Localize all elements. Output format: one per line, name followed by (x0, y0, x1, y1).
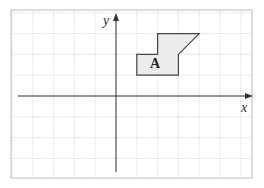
grid-lines (11, 10, 252, 178)
y-axis-arrow-icon (113, 13, 119, 21)
x-axis-label: x (240, 100, 248, 115)
grid-border (11, 10, 252, 178)
coordinate-grid-figure: x y A (0, 0, 264, 188)
shape-a-label: A (150, 56, 161, 71)
y-axis-label: y (101, 13, 110, 28)
